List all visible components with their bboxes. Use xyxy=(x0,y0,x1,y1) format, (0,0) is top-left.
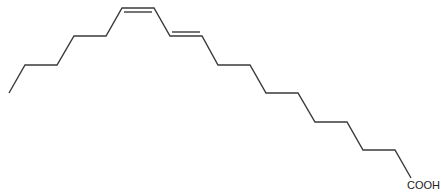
carboxylic-acid-label: COOH xyxy=(407,179,440,191)
carbon-chain xyxy=(9,8,411,178)
skeletal-structure-diagram: COOH xyxy=(0,0,441,194)
